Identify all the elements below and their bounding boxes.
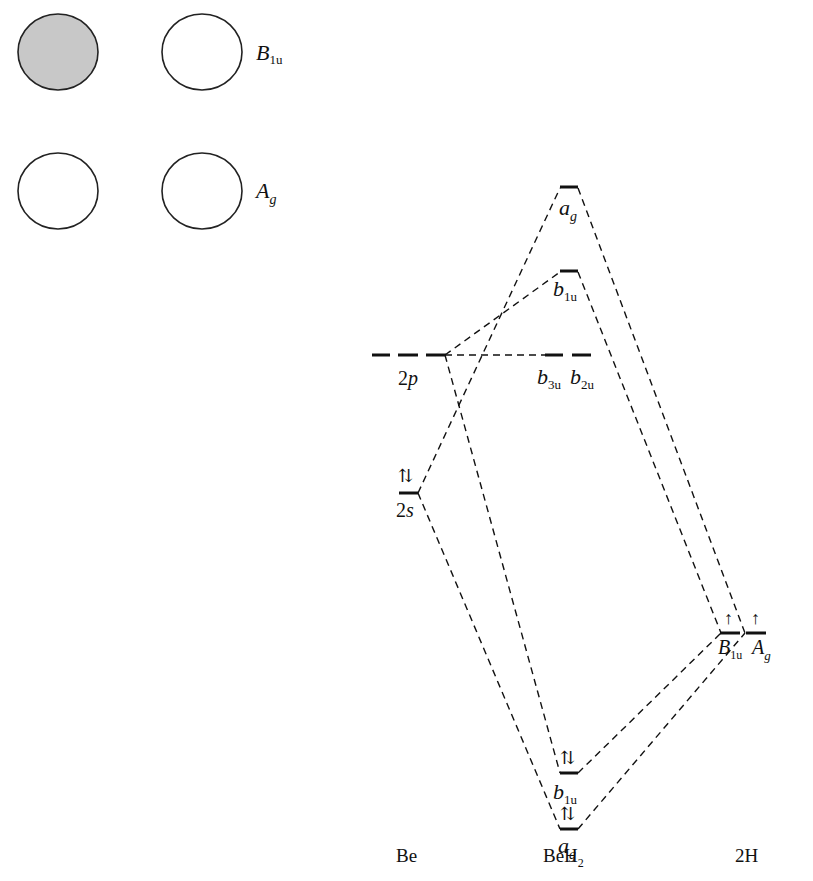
electrons-2s: ⇅ [398,466,413,486]
label-ag-top: ag [559,195,577,224]
label-2p: 2p [398,367,418,390]
column-label-be: Be [396,845,417,866]
sketch-label-b1u: B1u [256,40,283,67]
electrons-ag-bottom: ⇅ [560,804,575,824]
label-b2u: b2u [570,364,595,392]
energy-levels [372,187,766,829]
ag-right-lobe [162,153,242,229]
orbital-sketch [18,14,242,229]
label-h-b1u: B1u [718,636,742,662]
column-label-2h: 2H [735,845,759,866]
electrons-b1u-bottom: ⇅ [560,748,575,768]
electron-h-b1u: ↑ [724,608,733,628]
ag-left-lobe [18,153,98,229]
label-h-ag: Ag [750,636,771,663]
label-b3u: b3u [537,364,562,392]
correlation-lines [418,188,745,829]
electron-h-ag: ↑ [751,608,760,628]
label-b1u-bottom: b1u [553,779,578,807]
b1u-right-lobe [162,14,242,90]
sketch-label-ag: Ag [254,178,276,207]
mo-diagram: B1u Ag 2p ⇅ 2s ag b1u b3u b2u ⇅ b1u ⇅ ag… [0,0,813,881]
b1u-left-lobe-shaded [18,14,98,90]
label-2s: 2s [396,499,414,521]
label-b1u-top: b1u [553,276,578,304]
column-label-beh2: BeH2 [543,845,584,870]
